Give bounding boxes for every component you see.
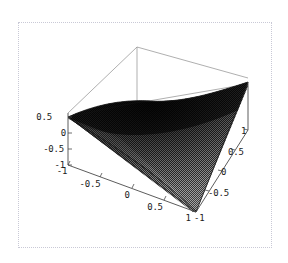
z-tick-label: 0.5 [36,112,52,122]
surface-plot-graphic: 0.5 0 -0.5 -1 -1 -0.5 0 0.5 1 -1 -0.5 0 … [0,0,288,263]
y-tick-label: -1 [194,213,204,223]
z-tick-label: 0 [61,128,66,138]
x-tick-label: -1 [57,166,67,176]
z-tick-label: -0.5 [43,144,64,154]
y-tick-label: 0.5 [228,147,244,157]
x-tick-label: 0 [124,190,129,200]
z-axis-tick-labels: 0.5 0 -0.5 -1 [36,112,66,170]
x-tick-label: 0.5 [147,202,163,212]
z-tick-marks [68,117,72,165]
x-tick-label: 1 [185,213,190,223]
y-tick-label: 1 [241,126,246,136]
y-tick-label: 0 [221,167,226,177]
x-tick-label: -0.5 [80,179,101,189]
y-tick-label: -0.5 [208,188,229,198]
plot-root: 0.5 0 -0.5 -1 -1 -0.5 0 0.5 1 -1 -0.5 0 … [0,0,288,263]
